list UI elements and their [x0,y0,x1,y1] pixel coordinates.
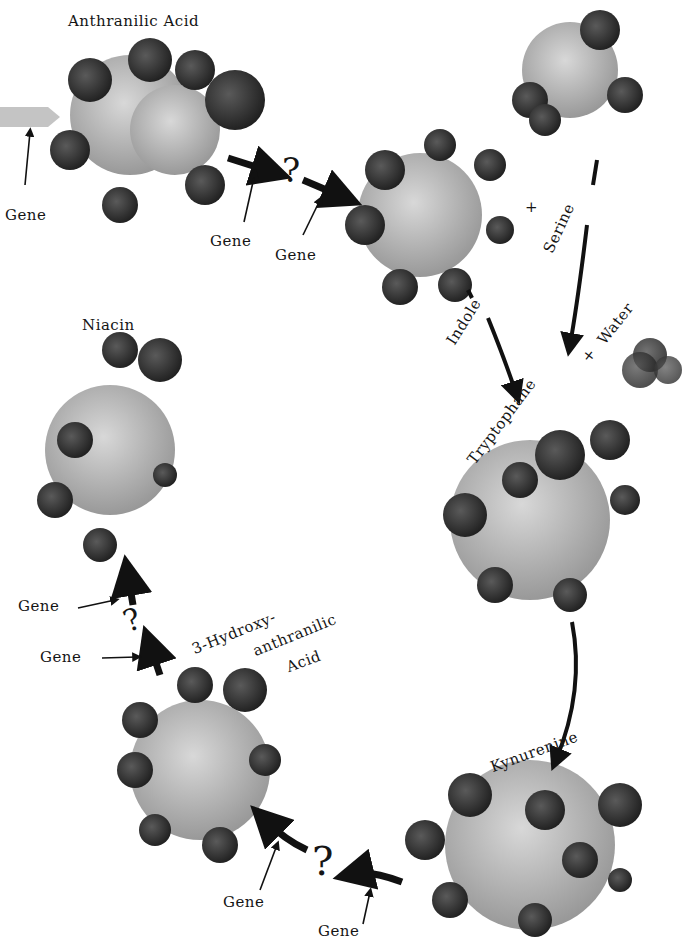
molecule-kynurenine [405,760,642,937]
molecule-hydroxy-anthranilic-acid [117,667,281,863]
gene-label-2: Gene [210,232,251,250]
gene-label-4: Gene [18,597,59,615]
gene-label-5: Gene [40,648,81,666]
label-anthranilic-acid: Anthranilic Acid [68,12,199,30]
pathway-diagram [0,0,693,943]
molecule-serine [512,10,643,136]
molecule-indole [345,129,514,305]
unknown-step-1: ? [282,150,301,190]
molecule-anthranilic-acid [50,38,265,223]
gene-label-6: Gene [223,893,264,911]
label-niacin: Niacin [82,316,135,334]
molecule-niacin [37,332,182,562]
gene-label-7: Gene [318,922,359,940]
gene-label-1: Gene [5,206,46,224]
unknown-step-2: ? [312,838,334,884]
gene-label-3: Gene [275,246,316,264]
input-arrow [0,107,60,127]
molecule-water [622,338,682,388]
label-plus-indole-serine: + [525,198,538,216]
